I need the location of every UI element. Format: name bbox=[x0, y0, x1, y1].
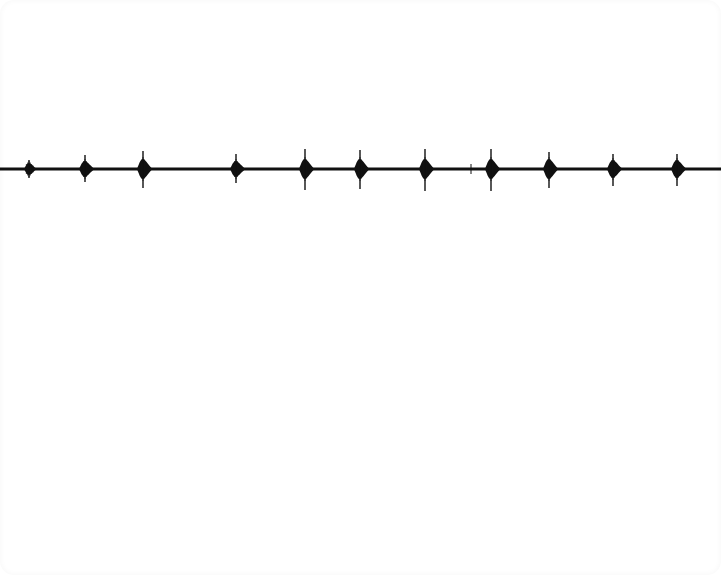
waveform-trace bbox=[0, 0, 721, 575]
background bbox=[0, 0, 721, 575]
